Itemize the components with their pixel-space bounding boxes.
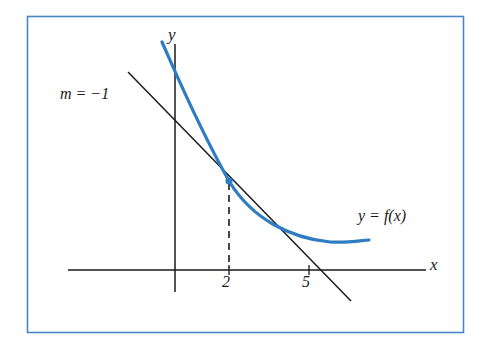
tangent-line	[128, 72, 351, 301]
graph-canvas	[0, 0, 486, 348]
x-tick-label-5: 5	[302, 274, 310, 290]
figure-container: y x m = −1 y = f(x) 2 5	[0, 0, 486, 348]
tangency-point-marker	[225, 177, 232, 184]
x-tick-label-2: 2	[222, 274, 230, 290]
figure-border	[28, 17, 464, 333]
curve-equation-label: y = f(x)	[358, 208, 406, 224]
x-axis-label: x	[430, 256, 438, 273]
slope-annotation-label: m = −1	[60, 86, 109, 102]
y-axis-label: y	[168, 26, 176, 43]
